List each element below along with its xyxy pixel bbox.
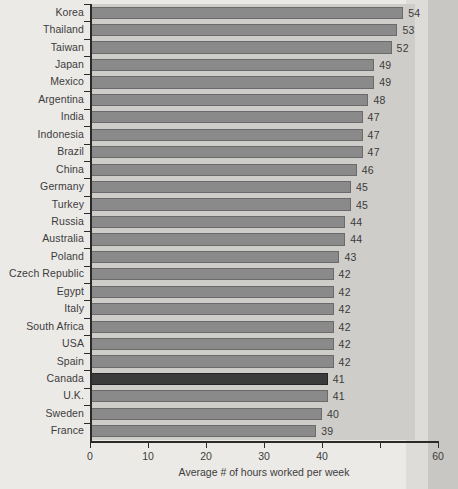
x-axis-tick xyxy=(264,441,265,448)
y-axis-label: Argentina xyxy=(0,93,84,105)
y-axis-label: U.K. xyxy=(0,389,84,401)
bar-poland xyxy=(90,251,339,263)
y-axis-label: Indonesia xyxy=(0,128,84,140)
bar-mexico xyxy=(90,76,374,88)
bar-taiwan xyxy=(90,41,392,53)
y-axis-label: Russia xyxy=(0,215,84,227)
bar-germany xyxy=(90,181,351,193)
x-axis-tick xyxy=(438,441,439,448)
y-axis-tick xyxy=(84,126,91,127)
x-axis-tick-label: 30 xyxy=(258,450,270,462)
bar-value-label: 43 xyxy=(344,251,356,263)
y-axis-label: Canada xyxy=(0,372,84,384)
x-axis-tick-label: 0 xyxy=(87,450,93,462)
y-axis-label: Brazil xyxy=(0,145,84,157)
x-axis-tick-label: 10 xyxy=(142,450,154,462)
bar-value-label: 47 xyxy=(368,146,380,158)
y-axis-tick xyxy=(84,405,91,406)
bars-container: 5453524949484747474645454444434242424242… xyxy=(90,4,406,440)
bar-czech-republic xyxy=(90,268,334,280)
y-axis-label: Korea xyxy=(0,6,84,18)
y-axis-tick xyxy=(84,353,91,354)
x-axis-tick xyxy=(380,441,381,448)
bar-canada xyxy=(90,373,328,385)
y-axis-tick xyxy=(84,74,91,75)
bar-value-label: 54 xyxy=(408,7,420,19)
bar-value-label: 53 xyxy=(402,24,414,36)
bar-value-label: 41 xyxy=(333,373,345,385)
y-axis-label: Mexico xyxy=(0,75,84,87)
bar-india xyxy=(90,111,363,123)
bar-value-label: 52 xyxy=(397,42,409,54)
bar-value-label: 42 xyxy=(339,356,351,368)
y-axis-label: India xyxy=(0,110,84,122)
y-axis-label: Germany xyxy=(0,180,84,192)
bar-brazil xyxy=(90,146,363,158)
bar-value-label: 45 xyxy=(356,199,368,211)
x-axis-tick xyxy=(322,441,323,448)
bar-value-label: 42 xyxy=(339,303,351,315)
y-axis-label: Egypt xyxy=(0,285,84,297)
y-axis-label: USA xyxy=(0,337,84,349)
bar-value-label: 42 xyxy=(339,338,351,350)
x-axis-tick-label: 40 xyxy=(316,450,328,462)
y-axis-tick xyxy=(84,56,91,57)
y-axis-line xyxy=(90,4,92,441)
bar-value-label: 39 xyxy=(321,425,333,437)
bar-value-label: 49 xyxy=(379,76,391,88)
y-axis-tick xyxy=(84,388,91,389)
y-axis-label: South Africa xyxy=(0,320,84,332)
bar-korea xyxy=(90,7,403,19)
y-axis-label: Sweden xyxy=(0,407,84,419)
y-axis-tick xyxy=(84,21,91,22)
y-axis-tick xyxy=(84,370,91,371)
y-axis-tick xyxy=(84,283,91,284)
y-axis-label: France xyxy=(0,424,84,436)
y-axis-tick xyxy=(84,300,91,301)
x-axis-tick-label: 20 xyxy=(200,450,212,462)
y-axis-tick xyxy=(84,39,91,40)
y-axis-label: China xyxy=(0,163,84,175)
bar-thailand xyxy=(90,24,397,36)
y-axis-tick xyxy=(84,213,91,214)
y-axis-tick xyxy=(84,266,91,267)
y-axis-tick xyxy=(84,91,91,92)
bar-value-label: 46 xyxy=(362,164,374,176)
y-axis-tick xyxy=(84,144,91,145)
bar-australia xyxy=(90,233,345,245)
y-axis-label: Italy xyxy=(0,302,84,314)
y-axis-label: Turkey xyxy=(0,198,84,210)
x-axis-tick xyxy=(90,441,91,448)
bar-chart: KoreaThailandTaiwanJapanMexicoArgentinaI… xyxy=(0,0,458,489)
bar-value-label: 48 xyxy=(373,94,385,106)
bar-egypt xyxy=(90,286,334,298)
bar-usa xyxy=(90,338,334,350)
y-axis-tick xyxy=(84,4,91,5)
x-axis-tick-label: 60 xyxy=(432,450,444,462)
y-axis-label: Czech Republic xyxy=(0,267,84,279)
x-axis-tick xyxy=(206,441,207,448)
y-axis-tick xyxy=(84,231,91,232)
y-axis-label: Poland xyxy=(0,250,84,262)
y-axis-tick xyxy=(84,335,91,336)
y-axis-tick xyxy=(84,161,91,162)
bar-russia xyxy=(90,216,345,228)
y-axis-label: Spain xyxy=(0,355,84,367)
x-axis-title: Average # of hours worked per week xyxy=(90,466,438,478)
bar-value-label: 42 xyxy=(339,268,351,280)
y-axis-tick xyxy=(84,248,91,249)
bar-value-label: 47 xyxy=(368,129,380,141)
bar-france xyxy=(90,425,316,437)
bar-sweden xyxy=(90,408,322,420)
y-axis-label: Thailand xyxy=(0,23,84,35)
bar-argentina xyxy=(90,94,368,106)
y-axis-label: Australia xyxy=(0,232,84,244)
bar-value-label: 42 xyxy=(339,321,351,333)
y-axis-tick xyxy=(84,318,91,319)
bar-value-label: 47 xyxy=(368,111,380,123)
bar-south-africa xyxy=(90,321,334,333)
bar-value-label: 42 xyxy=(339,286,351,298)
bar-value-label: 49 xyxy=(379,59,391,71)
y-axis-tick xyxy=(84,109,91,110)
bar-value-label: 44 xyxy=(350,216,362,228)
